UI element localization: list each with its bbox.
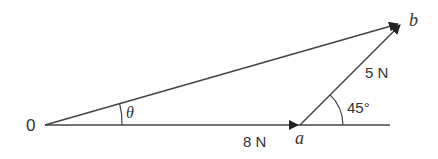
point-b-label: b	[409, 10, 418, 30]
theta-label: θ	[126, 104, 134, 121]
theta-arc	[120, 103, 123, 125]
origin-label: 0	[26, 116, 35, 135]
point-a-label: a	[295, 128, 304, 148]
vector-diagram: 0 θ 8 N a 5 N 45° b	[0, 0, 438, 159]
diagram-canvas: 0 θ 8 N a 5 N 45° b	[0, 0, 438, 159]
force-ab-label: 5 N	[365, 64, 388, 81]
angle-45-arc	[330, 95, 343, 125]
angle-45-label: 45°	[347, 99, 370, 116]
vector-ob-resultant	[45, 24, 398, 125]
force-oa-label: 8 N	[243, 133, 266, 150]
